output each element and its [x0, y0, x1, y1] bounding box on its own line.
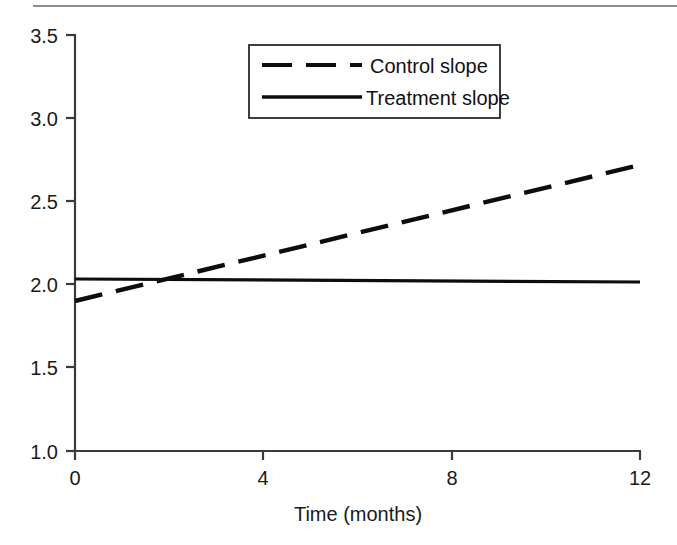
y-tick-marks	[66, 35, 75, 451]
x-axis-title: Time (months)	[294, 503, 422, 525]
figure-root: 3.5 3.0 2.5 2.0 1.5 1.0 0 4 8 12 Time (m…	[0, 0, 677, 545]
y-tick-label-3.0: 3.0	[30, 108, 58, 130]
x-tick-label-0: 0	[69, 467, 80, 489]
legend-label-control-slope: Control slope	[370, 55, 488, 77]
y-tick-label-1.5: 1.5	[30, 357, 58, 379]
x-tick-label-12: 12	[629, 467, 651, 489]
y-tick-label-2.5: 2.5	[30, 191, 58, 213]
y-tick-label-1.0: 1.0	[30, 441, 58, 463]
line-chart: 3.5 3.0 2.5 2.0 1.5 1.0 0 4 8 12 Time (m…	[0, 0, 677, 545]
x-tick-label-8: 8	[446, 467, 457, 489]
legend-label-treatment-slope: Treatment slope	[366, 87, 510, 109]
y-tick-label-3.5: 3.5	[30, 25, 58, 47]
y-tick-label-2.0: 2.0	[30, 274, 58, 296]
x-tick-marks	[75, 451, 640, 460]
legend: Control slope Treatment slope	[249, 45, 510, 118]
x-tick-label-4: 4	[257, 467, 268, 489]
